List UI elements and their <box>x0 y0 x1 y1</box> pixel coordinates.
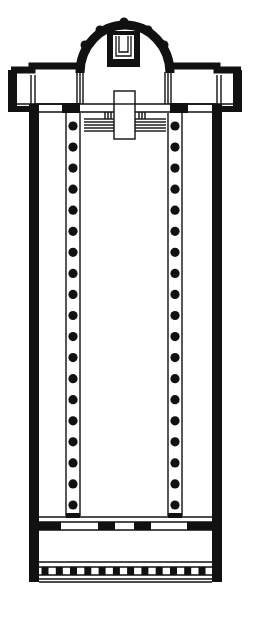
pier <box>127 567 134 575</box>
pier <box>141 567 148 575</box>
column <box>170 206 179 215</box>
column <box>170 164 179 173</box>
pier <box>156 567 163 575</box>
column <box>68 121 77 130</box>
column <box>68 500 77 509</box>
column <box>68 206 77 215</box>
column <box>68 353 77 362</box>
apse-altar-niche <box>107 31 140 67</box>
column <box>170 332 179 341</box>
colonnade-left <box>66 113 80 516</box>
column <box>68 374 77 383</box>
pier <box>70 567 77 575</box>
column <box>170 185 179 194</box>
column <box>68 458 77 467</box>
column <box>68 164 77 173</box>
column <box>170 121 179 130</box>
column <box>68 479 77 488</box>
column <box>170 269 179 278</box>
narthex <box>39 513 212 530</box>
column <box>170 290 179 299</box>
column <box>68 269 77 278</box>
pier <box>56 567 63 575</box>
column <box>68 332 77 341</box>
column <box>170 227 179 236</box>
pier <box>84 567 91 575</box>
pier <box>170 567 177 575</box>
column <box>170 500 179 509</box>
column <box>170 311 179 320</box>
pier <box>99 567 106 575</box>
column <box>68 290 77 299</box>
column <box>170 437 179 446</box>
apse <box>80 18 170 74</box>
column <box>170 395 179 404</box>
column <box>170 248 179 257</box>
column <box>170 479 179 488</box>
basilica-floor-plan <box>0 0 255 623</box>
column <box>170 416 179 425</box>
column <box>68 227 77 236</box>
aisle-walls <box>29 104 222 582</box>
column <box>68 311 77 320</box>
altar <box>84 91 166 139</box>
column <box>68 395 77 404</box>
pier <box>199 567 206 575</box>
colonnade-right <box>168 113 182 516</box>
column <box>68 248 77 257</box>
column <box>170 374 179 383</box>
column <box>68 437 77 446</box>
column <box>68 143 77 152</box>
column <box>170 353 179 362</box>
pier <box>42 567 49 575</box>
entrance-colonnade <box>39 562 212 582</box>
column <box>170 143 179 152</box>
column <box>68 416 77 425</box>
column <box>170 458 179 467</box>
pier <box>113 567 120 575</box>
column <box>68 185 77 194</box>
pier <box>184 567 191 575</box>
